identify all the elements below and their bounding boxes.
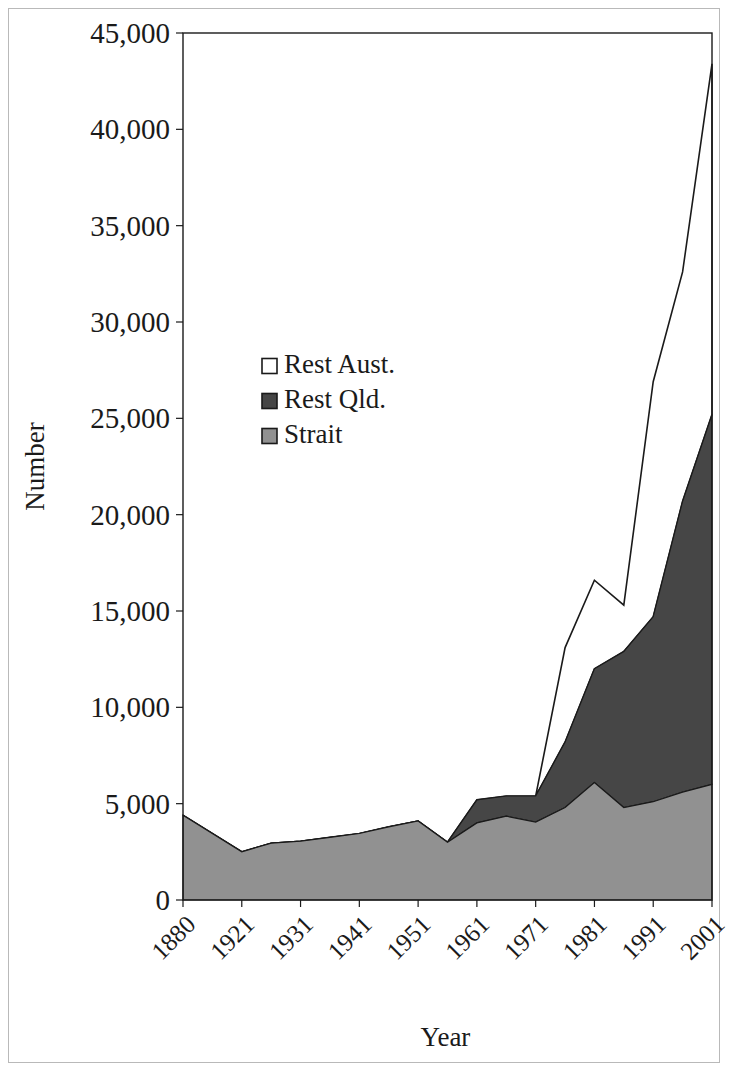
- x-tick-label: 2001: [675, 910, 729, 964]
- y-axis-title: Number: [20, 422, 50, 510]
- chart-figure: 05,00010,00015,00020,00025,00030,00035,0…: [0, 0, 730, 1073]
- legend-item[interactable]: Rest Qld.: [262, 384, 386, 414]
- y-tick-label: 35,000: [90, 210, 170, 242]
- legend-label: Rest Qld.: [284, 384, 386, 414]
- y-tick-label: 25,000: [90, 402, 170, 434]
- x-tick-label: 1981: [558, 910, 612, 964]
- x-tick-label: 1961: [440, 910, 494, 964]
- x-tick-label: 1941: [322, 910, 376, 964]
- legend-item[interactable]: Strait: [262, 419, 343, 449]
- stacked-area-chart: 05,00010,00015,00020,00025,00030,00035,0…: [0, 0, 730, 1073]
- x-tick-label: 1971: [499, 910, 553, 964]
- y-tick-label: 40,000: [90, 113, 170, 145]
- x-tick-label: 1921: [205, 910, 259, 964]
- legend-swatch: [262, 394, 277, 409]
- x-tick-label: 1991: [616, 910, 670, 964]
- y-tick-label: 15,000: [90, 595, 170, 627]
- legend-swatch: [262, 429, 277, 444]
- x-tick-label: 1931: [264, 910, 318, 964]
- y-tick-label: 10,000: [90, 691, 170, 723]
- legend-item[interactable]: Rest Aust.: [262, 349, 395, 379]
- x-tick-label: 1951: [381, 910, 435, 964]
- y-tick-label: 5,000: [105, 788, 170, 820]
- legend-swatch: [262, 359, 277, 374]
- legend-label: Rest Aust.: [284, 349, 395, 379]
- y-tick-label: 45,000: [90, 17, 170, 49]
- x-axis-title: Year: [421, 1022, 471, 1052]
- y-tick-label: 20,000: [90, 499, 170, 531]
- legend-label: Strait: [284, 419, 343, 449]
- x-tick-label: 1880: [146, 910, 200, 964]
- y-tick-label: 0: [156, 884, 171, 916]
- y-tick-label: 30,000: [90, 306, 170, 338]
